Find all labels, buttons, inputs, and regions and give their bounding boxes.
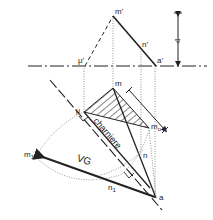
label-m: m bbox=[115, 79, 122, 88]
true-length-vg bbox=[40, 156, 155, 197]
descriptive-geometry-diagram: Δ m' n' a' μ' m μ mo n a m1 n1 VG charni… bbox=[0, 0, 213, 220]
edge-m-prime-a-prime bbox=[113, 16, 156, 66]
label-a-prime: a' bbox=[157, 56, 163, 65]
label-mu: μ bbox=[76, 107, 80, 115]
edge-mu-prime-m-prime bbox=[85, 16, 113, 66]
label-n-prime: n' bbox=[142, 40, 148, 49]
rotation-arc-mu bbox=[37, 112, 84, 155]
label-n1: n1 bbox=[108, 183, 116, 193]
label-mu-prime: μ' bbox=[78, 56, 85, 65]
label-vg: VG bbox=[76, 152, 93, 167]
delta-label-top: Δ bbox=[173, 37, 181, 44]
label-n: n bbox=[143, 151, 147, 160]
right-angle-mu bbox=[79, 116, 88, 121]
label-m0: mo bbox=[151, 122, 162, 132]
label-m1: m1 bbox=[24, 150, 35, 160]
label-a: a bbox=[159, 193, 164, 202]
label-m-prime: m' bbox=[115, 7, 124, 16]
right-angle-hinge bbox=[124, 172, 134, 178]
